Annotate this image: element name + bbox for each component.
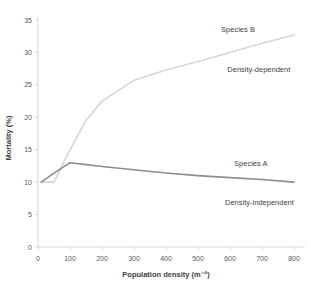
axes — [38, 17, 305, 247]
x-tick-label: 100 — [64, 255, 76, 262]
y-tick-label: 30 — [24, 49, 32, 56]
y-tick-label: 5 — [28, 211, 32, 218]
x-tick-label: 800 — [288, 255, 300, 262]
x-tick-label: 500 — [192, 255, 204, 262]
y-tick-label: 10 — [24, 179, 32, 186]
x-tick-label: 200 — [96, 255, 108, 262]
x-tick-label: 600 — [224, 255, 236, 262]
x-tick-label: 0 — [36, 255, 40, 262]
x-axis-title: Population density (m⁻²) — [122, 270, 210, 279]
y-tick-label: 25 — [24, 81, 32, 88]
y-tick-label: 0 — [28, 244, 32, 251]
annotation-label: Species B — [221, 25, 255, 34]
x-tick-label: 700 — [256, 255, 268, 262]
y-tick-label: 20 — [24, 114, 32, 121]
axis-ticks: 010020030040050060070080005101520253035 — [24, 17, 300, 262]
mortality-line-chart: 010020030040050060070080005101520253035 … — [0, 0, 314, 291]
annotation-label: Density-dependent — [227, 65, 291, 74]
y-tick-label: 35 — [24, 17, 32, 24]
y-tick-label: 15 — [24, 146, 32, 153]
y-axis-title: Mortality (%) — [4, 115, 13, 161]
x-tick-label: 300 — [128, 255, 140, 262]
annotation-label: Species A — [234, 159, 267, 168]
x-tick-label: 400 — [160, 255, 172, 262]
chart-container: 010020030040050060070080005101520253035 … — [0, 0, 314, 291]
annotation-label: Density-independent — [225, 198, 295, 207]
